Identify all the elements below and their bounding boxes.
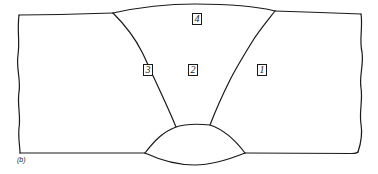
root-bead-upper-arc	[145, 124, 245, 153]
pass-label-3: 3	[143, 64, 153, 76]
right-plate-break-edge	[358, 14, 362, 152]
figure-caption: (b)	[17, 156, 26, 163]
left-plate-break-edge	[18, 15, 20, 153]
weld-cross-section-diagram	[0, 0, 378, 174]
left-plate-top-edge	[19, 13, 113, 15]
root-bead-lower-arc	[145, 153, 245, 165]
right-plate-top-edge	[275, 11, 361, 14]
right-plate-bottom-edge	[245, 152, 358, 154]
pass-label-1: 1	[257, 64, 267, 76]
weld-cap-arc	[113, 4, 275, 13]
pass-label-4: 4	[192, 13, 202, 25]
pass-label-2: 2	[188, 64, 198, 76]
